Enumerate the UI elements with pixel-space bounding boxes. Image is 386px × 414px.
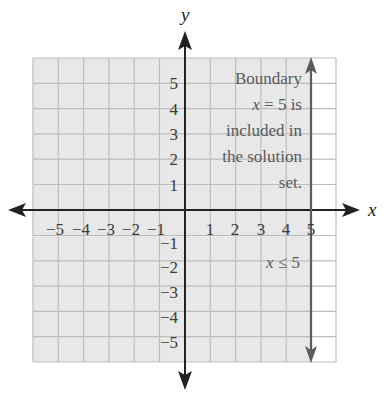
svg-text:−5: −5	[160, 333, 178, 352]
svg-text:x = 5 is: x = 5 is	[251, 95, 302, 114]
svg-text:−3: −3	[160, 283, 178, 302]
svg-text:−4: −4	[160, 308, 179, 327]
inequality-graph: y x −5 −4 −3 −2 −1 1 2 3 4 5 5 4 3 2 1 −…	[0, 0, 386, 414]
svg-text:−4: −4	[72, 220, 91, 239]
svg-text:3: 3	[170, 125, 179, 144]
svg-text:5: 5	[307, 220, 316, 239]
inequality-label: x ≤ 5	[265, 253, 300, 272]
svg-text:set.: set.	[279, 173, 302, 192]
svg-text:4: 4	[170, 100, 179, 119]
svg-text:2: 2	[170, 150, 179, 169]
svg-text:3: 3	[257, 220, 266, 239]
svg-text:−1: −1	[160, 234, 178, 253]
svg-text:−3: −3	[97, 220, 115, 239]
y-axis-label: y	[179, 4, 190, 25]
svg-text:1: 1	[170, 176, 179, 195]
svg-text:the solution: the solution	[222, 147, 302, 166]
svg-text:2: 2	[231, 220, 240, 239]
svg-text:Boundary: Boundary	[235, 69, 303, 88]
svg-text:5: 5	[170, 74, 179, 93]
svg-text:−5: −5	[46, 220, 64, 239]
svg-text:4: 4	[282, 220, 291, 239]
svg-text:included in: included in	[226, 121, 303, 140]
x-axis-label: x	[367, 199, 377, 220]
svg-text:1: 1	[206, 220, 215, 239]
svg-text:−2: −2	[122, 220, 140, 239]
svg-text:−2: −2	[160, 258, 178, 277]
